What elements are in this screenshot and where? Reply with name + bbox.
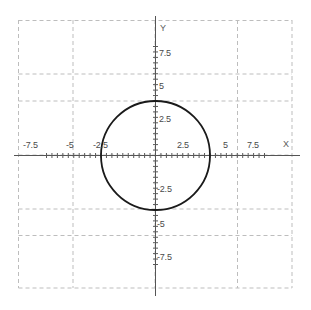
y-tick-label-5: 5 — [159, 82, 164, 91]
y-tick-label-7.5: 7.5 — [159, 49, 171, 58]
x-tick-label--7.5: -7.5 — [23, 141, 38, 150]
y-tick-label--5: -5 — [157, 220, 165, 229]
x-axis-label: X — [283, 140, 289, 149]
x-tick-label-2.5: 2.5 — [177, 141, 189, 150]
y-tick-label--2.5: -2.5 — [157, 185, 172, 194]
x-tick-label--5: -5 — [66, 141, 74, 150]
y-tick-label-2.5: 2.5 — [159, 115, 171, 124]
y-axis-label: Y — [160, 24, 166, 33]
graph-canvas: -7.5 -5 -2.5 2.5 5 7.5 7.5 5 2.5 -2.5 -5… — [0, 0, 311, 310]
x-tick-label-7.5: 7.5 — [247, 141, 259, 150]
coordinate-plane — [0, 0, 311, 310]
x-tick-label-5: 5 — [223, 141, 228, 150]
x-tick-label--2.5: -2.5 — [93, 141, 108, 150]
y-tick-label--7.5: -7.5 — [157, 253, 172, 262]
